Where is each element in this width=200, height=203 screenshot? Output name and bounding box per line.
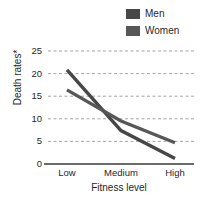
y-tick-label: 0	[20, 159, 42, 169]
y-tick-label: 15	[20, 91, 42, 101]
y-tick-label: 5	[20, 136, 42, 146]
series-lines	[67, 70, 175, 159]
x-tick-label: High	[150, 168, 200, 178]
y-tick-label: 25	[20, 46, 42, 56]
line-chart: Men Women Death rates* Fitness level 051…	[0, 0, 200, 203]
x-tick-label: Medium	[96, 168, 146, 178]
series-line-men	[67, 70, 175, 159]
y-tick-label: 10	[20, 114, 42, 124]
x-axis-title: Fitness level	[44, 182, 194, 193]
series-line-women	[67, 90, 175, 143]
x-tick-label: Low	[42, 168, 92, 178]
gridlines	[48, 51, 194, 141]
y-tick-label: 20	[20, 69, 42, 79]
